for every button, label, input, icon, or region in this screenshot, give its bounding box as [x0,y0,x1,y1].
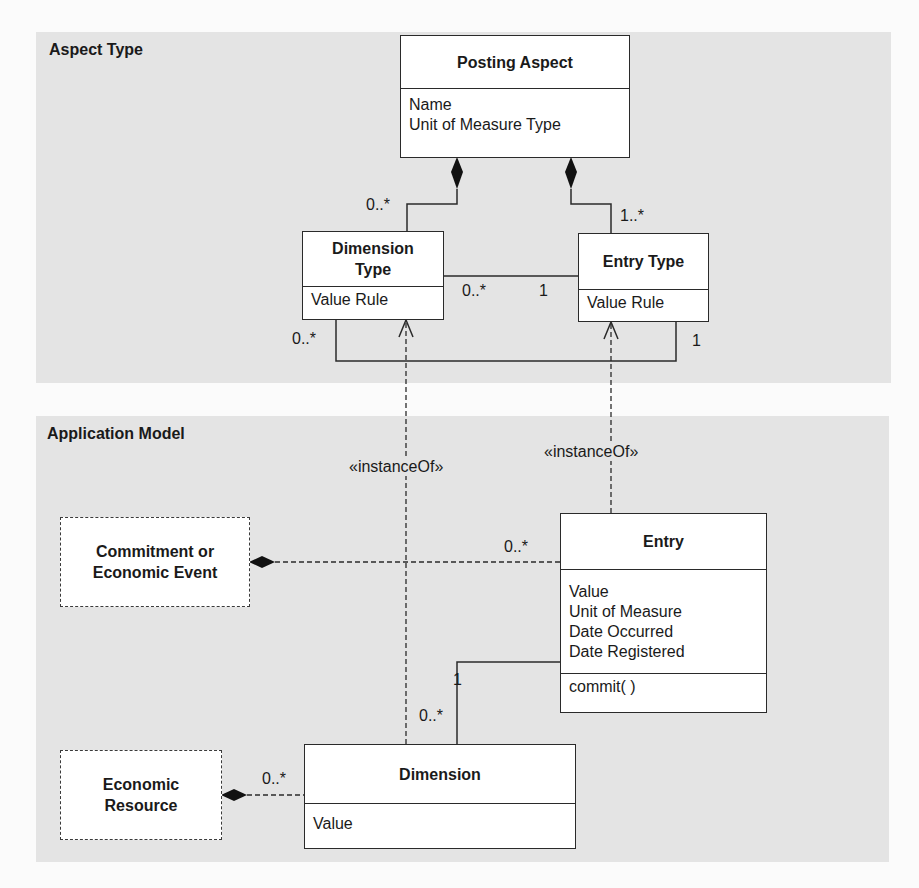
attribute-value-rule: Value Rule [587,293,700,313]
attribute-date-occurred: Date Occurred [569,622,758,642]
multiplicity-label: 0..* [504,538,528,556]
dimension-class[interactable]: Dimension Value [304,744,576,849]
dimension-type-name-line1: Dimension [332,238,414,259]
attribute-unit-of-measure-type: Unit of Measure Type [409,115,621,135]
entry-type-class[interactable]: Entry Type Value Rule [578,233,709,322]
commitment-line1: Commitment or [96,541,214,562]
multiplicity-label: 1 [692,332,701,350]
instance-of-label: «instanceOf» [347,458,445,476]
economic-resource-line1: Economic [103,774,179,795]
attribute-name: Name [409,95,621,115]
multiplicity-label: 0..* [419,707,443,725]
dimension-type-class[interactable]: Dimension Type Value Rule [302,231,444,320]
entry-class[interactable]: Entry Value Unit of Measure Date Occurre… [560,513,767,713]
commitment-or-economic-event-box[interactable]: Commitment or Economic Event [60,517,250,607]
attribute-value: Value [569,582,758,602]
aspect-type-title: Aspect Type [49,41,143,59]
instance-of-label: «instanceOf» [542,443,640,461]
multiplicity-label: 0..* [262,770,286,788]
economic-resource-box[interactable]: Economic Resource [60,750,222,840]
dimension-name: Dimension [305,745,575,804]
entry-type-name: Entry Type [579,234,708,290]
attribute-unit-of-measure: Unit of Measure [569,602,758,622]
commitment-line2: Economic Event [93,562,217,583]
attribute-value-rule: Value Rule [311,290,435,310]
multiplicity-label: 0..* [462,282,486,300]
posting-aspect-name: Posting Aspect [401,36,629,89]
attribute-value: Value [313,814,567,834]
operation-commit: commit( ) [569,677,758,697]
multiplicity-label: 1 [453,671,462,689]
multiplicity-label: 0..* [292,330,316,348]
attribute-date-registered: Date Registered [569,642,758,662]
entry-name: Entry [561,514,766,570]
dimension-type-name-line2: Type [355,259,391,280]
economic-resource-line2: Resource [105,795,178,816]
posting-aspect-class[interactable]: Posting Aspect Name Unit of Measure Type [400,35,630,158]
multiplicity-label: 1..* [620,207,644,225]
multiplicity-label: 0..* [366,196,390,214]
multiplicity-label: 1 [539,282,548,300]
application-model-title: Application Model [47,425,185,443]
